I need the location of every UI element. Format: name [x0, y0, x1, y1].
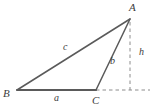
vertex-label-a: A	[129, 2, 136, 13]
diagram-canvas	[0, 0, 155, 111]
side-label-c: c	[63, 42, 67, 52]
triangle-diagram: A B C a b c h	[0, 0, 155, 111]
side-label-b: b	[110, 56, 115, 66]
side-label-a: a	[54, 93, 59, 103]
vertex-label-b: B	[3, 88, 10, 99]
vertex-label-c: C	[92, 95, 99, 106]
altitude-label-h: h	[139, 47, 144, 57]
